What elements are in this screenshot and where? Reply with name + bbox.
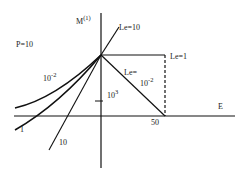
left-one-label: 1	[20, 125, 24, 134]
y-axis-label: M(1)	[76, 14, 91, 26]
curve-le-10	[101, 27, 119, 55]
le-1-label: Le=1	[170, 52, 187, 61]
parameter-label: P=10	[16, 40, 33, 49]
le-small-label: 10-2	[140, 76, 153, 88]
le-10-label: Le=10	[119, 23, 140, 32]
le-small-label-top: Le=	[124, 68, 137, 77]
left-small-label: 10-2	[43, 71, 56, 83]
diagram-canvas: M(1) P=10 Le=10 Le=1 Le= 10-2 10-2 1 10 …	[0, 0, 246, 173]
curve-le-0.01-right	[101, 55, 165, 116]
x-tick-label: 50	[151, 118, 159, 127]
y-tick-label: 103	[107, 88, 118, 100]
left-ten-label: 10	[59, 138, 67, 147]
x-axis-label: E	[218, 102, 223, 111]
curve-left-10	[49, 55, 101, 150]
